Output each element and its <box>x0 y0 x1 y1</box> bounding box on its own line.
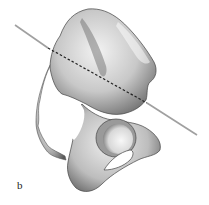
hip-bone-illustration <box>0 0 209 205</box>
hip-bone-figure: b <box>0 0 209 205</box>
axis-line-right <box>147 103 197 135</box>
acetabulum <box>103 124 133 154</box>
panel-label: b <box>17 180 23 191</box>
axis-line-left <box>15 25 48 48</box>
